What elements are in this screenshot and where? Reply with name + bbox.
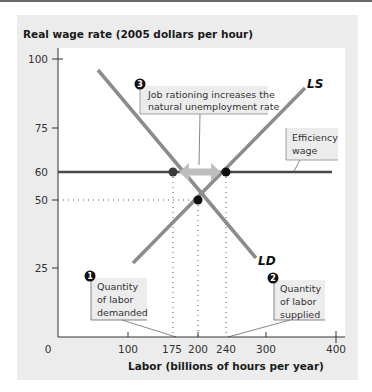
svg-text:200: 200 [188,343,208,355]
labor-demanded-point [169,168,178,177]
callout-3-line2: natural unemployment rate [148,101,280,112]
callout-1-line2: of labor [97,294,133,305]
svg-text:60: 60 [35,166,48,178]
leader-line [228,320,290,337]
y-tick-labels: 100 75 60 50 25 [28,53,48,274]
ld-label: LD [258,254,276,268]
leader-line [199,114,200,165]
svg-text:0: 0 [45,343,52,355]
callout-3: Job rationing increases the natural unem… [135,79,280,166]
badge-2-text: 2 [270,274,276,283]
svg-text:400: 400 [326,343,346,355]
callout-3-line1: Job rationing increases the [147,89,275,100]
svg-text:50: 50 [35,194,48,206]
svg-text:240: 240 [216,343,236,355]
leader-line [122,320,176,337]
chart-svg: Real wage rate (2005 dollars per hour) L… [0,0,372,392]
labor-supplied-point [222,168,231,177]
callout-1: Quantity of labor demanded 1 [85,271,177,338]
svg-text:300: 300 [256,343,276,355]
equilibrium-point [194,196,203,205]
svg-text:175: 175 [162,343,182,355]
callout-2-line1: Quantity [280,283,321,294]
svg-text:100: 100 [28,53,48,65]
badge-3-text: 3 [137,80,143,89]
x-axis-title: Labor (billions of hours per year) [128,360,324,372]
svg-text:25: 25 [35,262,48,274]
badge-1-text: 1 [87,272,93,281]
efficiency-label-line2: wage [292,145,318,156]
ls-label: LS [307,77,323,91]
callout-1-line3: demanded [97,307,148,318]
callout-2-line2: of labor [280,296,316,307]
y-axis-title: Real wage rate (2005 dollars per hour) [23,28,253,40]
svg-text:75: 75 [35,122,48,134]
svg-text:100: 100 [118,343,138,355]
efficiency-label-line1: Efficiency [292,132,338,143]
x-tick-labels: 0 100 175 200 240 300 400 [45,343,346,355]
callout-1-line1: Quantity [97,281,138,292]
callout-2-line3: supplied [280,309,320,320]
efficiency-wage-callout: Efficiency wage [286,128,338,171]
callout-2: Quantity of labor supplied 2 [228,273,325,338]
